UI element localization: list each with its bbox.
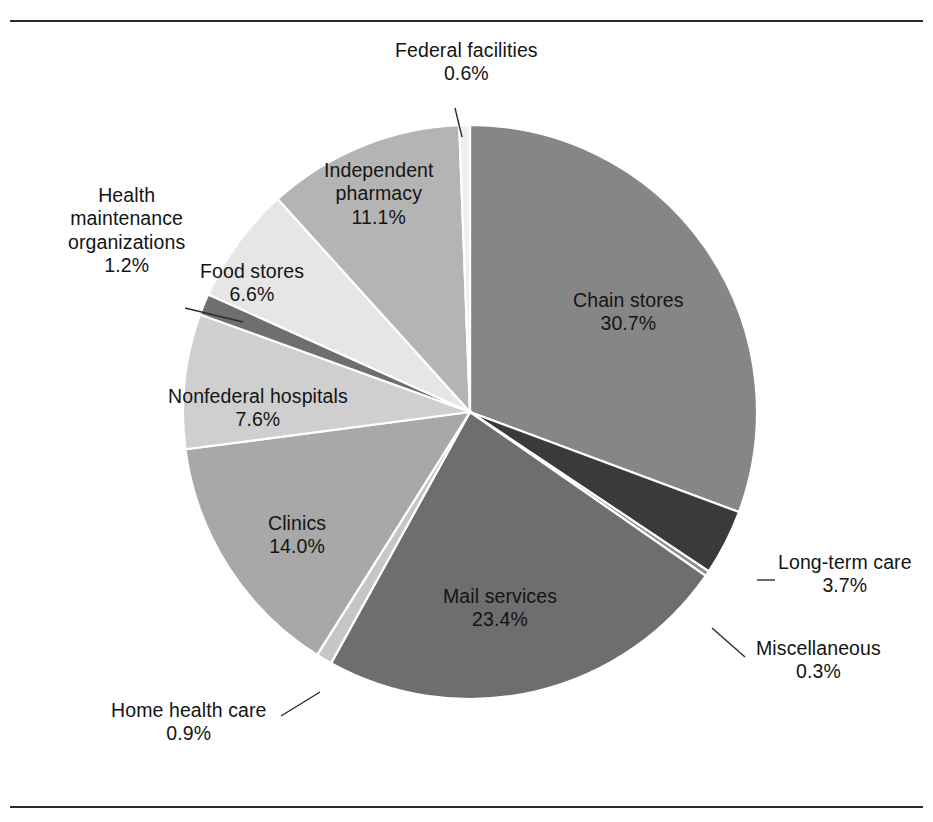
slice-label-percent-nonfederal-hospitals: 7.6% <box>168 408 348 431</box>
pie-chart-figure: Chain stores30.7%Long-term care3.7%Misce… <box>0 0 933 822</box>
slice-label-health-maintenance-organizations: Health maintenance organizations1.2% <box>68 184 185 278</box>
slice-label-mail-services: Mail services23.4% <box>443 585 557 632</box>
slice-label-name-mail-services: Mail services <box>443 585 557 608</box>
slice-label-name-federal-facilities: Federal facilities <box>395 39 538 62</box>
slice-label-nonfederal-hospitals: Nonfederal hospitals7.6% <box>168 385 348 432</box>
slice-label-long-term-care: Long-term care3.7% <box>778 551 912 598</box>
slice-label-federal-facilities: Federal facilities0.6% <box>395 39 538 86</box>
slice-label-percent-miscellaneous: 0.3% <box>756 660 881 683</box>
slice-label-clinics: Clinics14.0% <box>268 512 326 559</box>
slice-label-name-food-stores: Food stores <box>200 260 304 283</box>
slice-label-name-home-health-care: Home health care <box>111 699 267 722</box>
slice-label-food-stores: Food stores6.6% <box>200 260 304 307</box>
slice-label-percent-independent-pharmacy: 11.1% <box>324 206 434 229</box>
slice-label-percent-long-term-care: 3.7% <box>778 574 912 597</box>
leader-line-home-health-care <box>281 692 320 716</box>
slice-label-percent-chain-stores: 30.7% <box>573 312 684 335</box>
slice-label-name-long-term-care: Long-term care <box>778 551 912 574</box>
slice-label-name-health-maintenance-organizations: Health maintenance organizations <box>68 184 185 254</box>
slice-label-percent-mail-services: 23.4% <box>443 608 557 631</box>
slice-label-percent-health-maintenance-organizations: 1.2% <box>68 254 185 277</box>
slice-label-miscellaneous: Miscellaneous0.3% <box>756 637 881 684</box>
slice-label-independent-pharmacy: Independent pharmacy11.1% <box>324 159 434 229</box>
slice-label-name-independent-pharmacy: Independent pharmacy <box>324 159 434 206</box>
slice-label-percent-home-health-care: 0.9% <box>111 722 267 745</box>
slice-label-name-chain-stores: Chain stores <box>573 289 684 312</box>
leader-line-miscellaneous <box>712 628 745 657</box>
slice-label-percent-federal-facilities: 0.6% <box>395 62 538 85</box>
slice-label-percent-clinics: 14.0% <box>268 535 326 558</box>
slice-label-chain-stores: Chain stores30.7% <box>573 289 684 336</box>
slice-label-percent-food-stores: 6.6% <box>200 283 304 306</box>
slice-label-name-miscellaneous: Miscellaneous <box>756 637 881 660</box>
slice-label-name-nonfederal-hospitals: Nonfederal hospitals <box>168 385 348 408</box>
slice-label-home-health-care: Home health care0.9% <box>111 699 267 746</box>
slice-label-name-clinics: Clinics <box>268 512 326 535</box>
